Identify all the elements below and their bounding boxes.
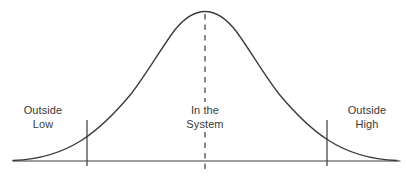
label-outside-high: Outside High <box>328 103 406 131</box>
label-outside-low-line1: Outside <box>0 103 86 117</box>
bell-curve-graphic <box>0 0 406 180</box>
label-outside-low-line2: Low <box>0 117 86 131</box>
label-outside-high-line1: Outside <box>328 103 406 117</box>
label-in-the-system: In the System <box>160 103 250 131</box>
bell-curve-diagram: Outside Low In the System Outside High <box>0 0 406 180</box>
normal-distribution-curve <box>13 12 397 161</box>
label-outside-low: Outside Low <box>0 103 86 131</box>
label-outside-high-line2: High <box>328 117 406 131</box>
label-in-the-system-line2: System <box>160 117 250 131</box>
label-in-the-system-line1: In the <box>160 103 250 117</box>
